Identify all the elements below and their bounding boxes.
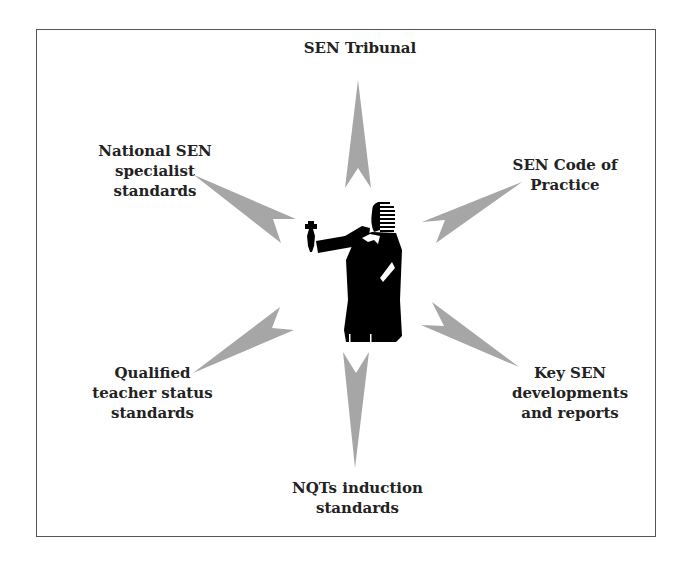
arrow-down-right-icon — [421, 302, 519, 367]
label-line: developments — [510, 383, 630, 403]
node-nqts-induction: NQTs induction standards — [290, 478, 425, 518]
node-sen-tribunal: SEN Tribunal — [300, 38, 420, 58]
node-national-sen-specialist: National SEN specialist standards — [90, 141, 220, 201]
label-line: SEN Tribunal — [300, 38, 420, 58]
label-line: Key SEN — [510, 363, 630, 383]
arrow-up-right-icon — [422, 182, 522, 243]
label-line: SEN Code of — [510, 155, 620, 175]
label-line: standards — [290, 498, 425, 518]
label-line: standards — [85, 403, 220, 423]
label-line: standards — [90, 181, 220, 201]
label-line: Qualified — [85, 363, 220, 383]
label-line: National SEN — [90, 141, 220, 161]
label-line: specialist — [90, 161, 220, 181]
label-line: Practice — [510, 175, 620, 195]
label-line: and reports — [510, 403, 630, 423]
node-key-sen-developments: Key SEN developments and reports — [510, 363, 630, 423]
label-line: teacher status — [85, 383, 220, 403]
node-qualified-teacher-status: Qualified teacher status standards — [85, 363, 220, 423]
arrow-up-icon — [345, 80, 371, 188]
node-sen-code-of-practice: SEN Code of Practice — [510, 155, 620, 195]
arrow-down-icon — [343, 352, 369, 468]
label-line: NQTs induction — [290, 478, 425, 498]
